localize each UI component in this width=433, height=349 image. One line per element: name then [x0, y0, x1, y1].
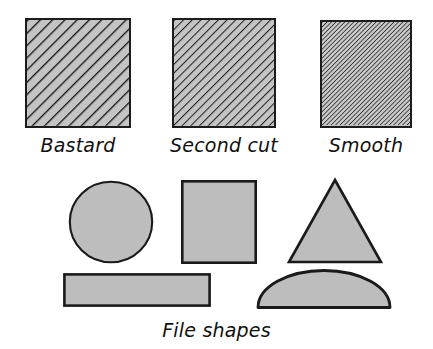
hatch-fill-smooth: [322, 22, 410, 125]
hatch-fill-second-cut: [174, 20, 274, 126]
round-file-profile: [70, 182, 152, 262]
file-shape-flat: [63, 273, 211, 307]
cut-grade-label-second-cut: Second cut: [164, 136, 284, 155]
cut-grade-label-bastard: Bastard: [25, 136, 131, 155]
file-shape-square: [181, 180, 257, 264]
file-shape-triangular: [287, 178, 383, 264]
cut-grade-square-second-cut: [172, 18, 276, 128]
hatch-fill-bastard: [27, 20, 129, 126]
triangular-file-profile: [289, 180, 381, 262]
file-cuts-and-shapes-figure: Bastard Second cut Smooth File shapes: [0, 0, 433, 349]
square-file-profile: [182, 181, 255, 262]
cut-grade-square-smooth: [320, 20, 412, 128]
cut-grade-label-smooth: Smooth: [318, 136, 414, 155]
file-shape-half-round: [256, 268, 392, 310]
file-shape-round: [68, 180, 154, 264]
flat-file-profile: [64, 274, 209, 305]
cut-grade-square-bastard: [25, 18, 131, 128]
figure-caption: File shapes: [0, 319, 433, 341]
half-round-file-profile: [258, 271, 390, 308]
